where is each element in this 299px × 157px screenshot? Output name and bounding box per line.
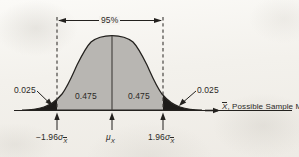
left-tail-probability-label: 0.025: [14, 86, 36, 95]
axis-label-leader-arrow: [205, 108, 220, 113]
lower-critical-value: −1.96: [36, 132, 58, 142]
tick-arrow-lower-critical: [54, 113, 59, 131]
overbar: [222, 102, 227, 103]
right-central-area-label: 0.475: [128, 92, 150, 101]
tick-arrow-mean: [109, 113, 114, 131]
right-tail-probability-label: 0.025: [197, 86, 219, 95]
overbar: [170, 137, 174, 138]
overbar: [63, 137, 67, 138]
mu-subscript: X: [111, 137, 115, 144]
tick-label-mean: μX: [106, 133, 115, 144]
sampling-distribution-figure: 95% 0.025 0.025 0.475 0.475 X, Possible …: [0, 0, 299, 157]
x-bar-symbol: X: [222, 103, 227, 111]
x-axis-label: X, Possible Sample Means: [222, 103, 299, 111]
tick-label-upper-critical: 1.96σX: [148, 133, 174, 144]
sigma-subscript-left: X: [63, 138, 67, 144]
tick-arrow-upper-critical: [160, 113, 165, 131]
tick-label-lower-critical: −1.96σX: [36, 133, 67, 144]
confidence-level-label: 95%: [99, 16, 120, 25]
left-central-area-label: 0.475: [75, 92, 97, 101]
x-axis-label-text: , Possible Sample Means: [227, 102, 299, 111]
upper-critical-value: 1.96: [148, 132, 165, 142]
left-tail-pointer-arrow: [37, 91, 53, 106]
sigma-subscript-right: X: [170, 138, 174, 144]
right-tail-pointer-arrow: [179, 91, 196, 106]
